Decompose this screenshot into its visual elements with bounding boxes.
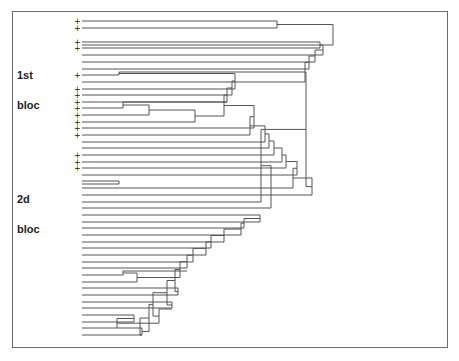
- plus-marker: +: [74, 131, 81, 140]
- plus-marker: +: [74, 24, 81, 33]
- plus-marker: +: [74, 164, 81, 173]
- plus-marker: +: [74, 44, 81, 53]
- dendrogram: ++++++++++++++++: [0, 0, 459, 361]
- plus-marker: +: [74, 71, 81, 80]
